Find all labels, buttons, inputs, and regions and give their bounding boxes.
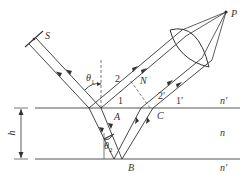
label-p: P (231, 9, 237, 19)
reflected-ray-film-right (122, 108, 153, 159)
lens (170, 29, 209, 67)
label-n-point: N (140, 76, 147, 86)
label-n-film: n (220, 128, 225, 138)
label-s: S (45, 31, 50, 41)
label-theta2: θ2 (104, 141, 112, 154)
label-ray-2p: 2′ (158, 91, 165, 101)
label-b: B (128, 163, 134, 173)
label-ray-1p: 1′ (176, 96, 183, 106)
label-n-bottom: n′ (220, 163, 227, 173)
label-ray-2: 2 (115, 74, 120, 84)
ray-2-prime (141, 58, 202, 108)
label-a: A (114, 112, 120, 122)
label-theta1: θ1 (86, 73, 94, 86)
incident-ray-left (29, 44, 89, 108)
label-ray-1: 1 (118, 96, 123, 106)
label-h: h (7, 131, 17, 136)
thin-film-diagram (0, 0, 251, 179)
label-c: C (157, 111, 164, 121)
label-n-top: n′ (220, 96, 227, 106)
focal-point-p (224, 10, 227, 13)
